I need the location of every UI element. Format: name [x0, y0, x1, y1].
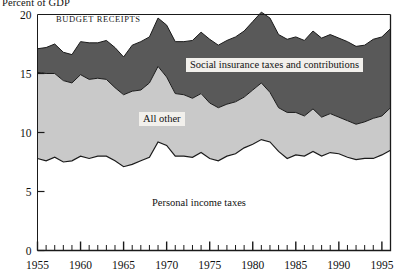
area-bands — [38, 12, 391, 250]
svg-text:1995: 1995 — [370, 259, 393, 271]
svg-text:15: 15 — [20, 68, 32, 80]
svg-text:20: 20 — [20, 9, 32, 21]
label-social-insurance: Social insurance taxes and contributions — [186, 58, 363, 72]
chart-figure: Percent of GDP 05101520 1955196019651970… — [0, 0, 409, 280]
svg-text:1980: 1980 — [241, 259, 264, 271]
series-caption-budget-receipts: BUDGET RECEIPTS — [56, 14, 141, 24]
chart-canvas: 05101520 1955196019651970197519801985199… — [0, 0, 409, 280]
svg-text:5: 5 — [26, 186, 32, 198]
svg-text:1965: 1965 — [112, 259, 135, 271]
svg-text:10: 10 — [20, 127, 32, 139]
svg-text:1990: 1990 — [327, 259, 350, 271]
svg-text:1970: 1970 — [155, 259, 178, 271]
svg-text:0: 0 — [26, 245, 32, 257]
svg-text:1975: 1975 — [198, 259, 221, 271]
x-tick-labels: 195519601965197019751980198519901995 — [26, 242, 394, 271]
svg-text:1985: 1985 — [284, 259, 307, 271]
svg-text:1960: 1960 — [69, 259, 92, 271]
label-all-other: All other — [139, 112, 185, 126]
svg-text:1955: 1955 — [26, 259, 49, 271]
label-personal-income-taxes: Personal income taxes — [152, 197, 246, 208]
